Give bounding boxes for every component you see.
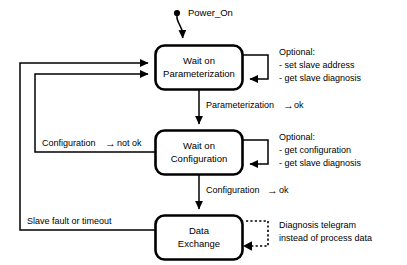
start-label: Power_On xyxy=(188,7,233,18)
start-node xyxy=(174,10,183,38)
start-arrow xyxy=(177,16,183,39)
transition-label-text: Slave fault or timeout xyxy=(27,216,112,226)
transition-label-result: ok xyxy=(294,100,304,110)
state-data-exchange[interactable]: Data Exchange xyxy=(156,216,243,260)
transition-parameterization-ok: Parameterization → ok xyxy=(199,90,304,125)
self-loop-data-exchange xyxy=(243,221,268,251)
transition-label-arrow-glyph: → xyxy=(267,184,278,196)
transition-configuration-not-ok: Configuration → not ok xyxy=(35,74,156,152)
transition-label-text: Parameterization xyxy=(206,100,274,110)
note-optional-configuration: Optional: - get configuration - get slav… xyxy=(279,132,362,168)
state-label-line1: Wait on xyxy=(183,140,215,151)
transition-label-result: not ok xyxy=(117,138,142,148)
start-dot-icon xyxy=(174,10,180,16)
note-line3: - get slave diagnosis xyxy=(279,73,362,83)
state-wait-on-parameterization[interactable]: Wait on Parameterization xyxy=(156,46,243,90)
note-line2: - set slave address xyxy=(279,60,355,70)
transition-label-text: Configuration xyxy=(206,185,260,195)
transition-label-arrow-glyph: → xyxy=(283,99,294,111)
note-diagnosis-telegram: Diagnosis telegram instead of process da… xyxy=(279,220,372,243)
self-loop-dotted-path xyxy=(246,221,268,246)
state-label-line1: Data xyxy=(189,225,210,236)
state-machine-diagram: Power_On Wait on Parameterization Option… xyxy=(0,0,407,265)
self-loop-arrowhead xyxy=(243,241,252,251)
note-line2: instead of process data xyxy=(279,233,372,243)
state-label-line2: Configuration xyxy=(171,153,228,164)
state-label-line1: Wait on xyxy=(183,55,215,66)
self-loop-arrow xyxy=(243,140,269,164)
note-line3: - get slave diagnosis xyxy=(279,158,362,168)
note-line1: Optional: xyxy=(279,47,315,57)
transition-label-text: Configuration xyxy=(42,138,96,148)
state-label-line2: Parameterization xyxy=(163,68,235,79)
state-label-line2: Exchange xyxy=(178,238,220,249)
transition-configuration-ok: Configuration → ok xyxy=(199,175,289,210)
self-loop-parameterization xyxy=(243,55,269,79)
self-loop-configuration xyxy=(243,140,269,164)
note-line1: Diagnosis telegram xyxy=(279,220,356,230)
note-line1: Optional: xyxy=(279,132,315,142)
self-loop-arrow xyxy=(243,55,269,79)
note-optional-parameterization: Optional: - set slave address - get slav… xyxy=(279,47,362,83)
note-line2: - get configuration xyxy=(279,145,351,155)
state-wait-on-configuration[interactable]: Wait on Configuration xyxy=(156,131,243,175)
transition-label-arrow-glyph: → xyxy=(105,137,116,149)
transition-label-result: ok xyxy=(279,185,289,195)
diagram-canvas: Power_On Wait on Parameterization Option… xyxy=(0,0,407,265)
